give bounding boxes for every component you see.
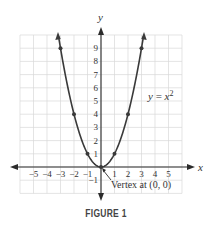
x-tick-label: −3: [56, 169, 66, 179]
y-tick-label: 6: [94, 83, 99, 93]
data-point-marker: [140, 46, 144, 50]
curve-left-arrow-icon: [55, 32, 60, 40]
x-tick-label: 3: [139, 169, 144, 179]
figure-caption: FIGURE 1: [16, 208, 196, 219]
x-tick-label: 1: [112, 169, 117, 179]
x-axis-left-arrow-icon: [10, 164, 18, 170]
y-axis-label: y: [97, 11, 103, 23]
vertex-note-text: Vertex at (0, 0): [111, 179, 171, 191]
y-tick-label: 7: [94, 70, 99, 80]
x-tick-label: 4: [153, 169, 158, 179]
y-axis-up-arrow-icon: [98, 27, 104, 35]
chart-plot-area: −5−4−3−2−112345−1123456789 x y y = x2 Ve…: [0, 0, 212, 226]
curve-right-arrow-icon: [141, 32, 146, 40]
y-tick-label: 8: [94, 56, 99, 66]
data-point-marker: [86, 152, 90, 156]
equation-label: y = x2: [147, 89, 174, 102]
vertex-pointer-arrowhead: [102, 168, 106, 173]
x-tick-label: 2: [126, 169, 131, 179]
x-tick-label: −2: [69, 169, 79, 179]
y-tick-label: −1: [88, 175, 98, 185]
y-tick-label: 1: [94, 149, 99, 159]
y-tick-label: 3: [94, 122, 99, 132]
equation-exponent: 2: [170, 89, 174, 98]
y-tick-label: 4: [94, 109, 99, 119]
parabola-figure: −5−4−3−2−112345−1123456789 x y y = x2 Ve…: [0, 0, 212, 226]
x-tick-label: −5: [29, 169, 39, 179]
y-tick-label: 9: [94, 43, 99, 53]
y-axis-down-arrow-icon: [98, 193, 104, 201]
data-point-marker: [126, 112, 130, 116]
data-point-marker: [113, 152, 117, 156]
data-point-marker: [59, 46, 63, 50]
y-tick-label: 5: [94, 96, 99, 106]
data-point-marker: [72, 112, 76, 116]
equation-equals: =: [153, 90, 165, 102]
x-axis-right-arrow-icon: [187, 164, 195, 170]
y-tick-label: 2: [94, 136, 99, 146]
x-tick-label: 5: [166, 169, 171, 179]
x-axis-label: x: [197, 161, 203, 173]
x-tick-label: −4: [42, 169, 52, 179]
